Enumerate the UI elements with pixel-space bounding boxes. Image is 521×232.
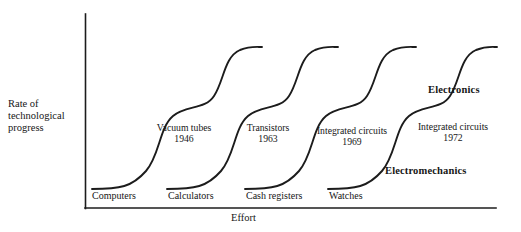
annotation-vacuum-tubes-year: 1946 bbox=[148, 133, 220, 144]
callout-electromechanics: Electromechanics bbox=[385, 165, 467, 177]
base-label-computers: Computers bbox=[92, 190, 136, 202]
y-axis-label-line-1: Rate of bbox=[8, 98, 82, 110]
annotation-vacuum-tubes: Vacuum tubes 1946 bbox=[148, 122, 220, 145]
annotation-integrated-circuits-1972-name: Integrated circuits bbox=[411, 121, 495, 132]
base-label-calculators: Calculators bbox=[168, 190, 214, 202]
technology-s-curve-figure: Rate of technological progress Effort Co… bbox=[0, 0, 521, 232]
s-curve-calculators bbox=[167, 47, 338, 189]
s-curve-computers bbox=[92, 47, 262, 189]
callout-electronics: Electronics bbox=[428, 84, 480, 96]
annotation-integrated-circuits-1969-year: 1969 bbox=[310, 136, 394, 147]
y-axis-label-line-3: progress bbox=[8, 122, 82, 134]
base-label-watches: Watches bbox=[329, 190, 363, 202]
annotation-integrated-circuits-1972: Integrated circuits 1972 bbox=[411, 121, 495, 144]
annotation-transistors: Transistors 1963 bbox=[237, 122, 299, 145]
annotation-transistors-name: Transistors bbox=[237, 122, 299, 133]
annotation-integrated-circuits-1969-name: Integrated circuits bbox=[310, 125, 394, 136]
annotation-vacuum-tubes-name: Vacuum tubes bbox=[148, 122, 220, 133]
y-axis-label-line-2: technological bbox=[8, 110, 82, 122]
annotation-integrated-circuits-1972-year: 1972 bbox=[411, 132, 495, 143]
annotation-transistors-year: 1963 bbox=[237, 133, 299, 144]
x-axis-label: Effort bbox=[231, 212, 256, 224]
base-label-cash-registers: Cash registers bbox=[246, 190, 302, 202]
y-axis-label: Rate of technological progress bbox=[8, 98, 82, 135]
annotation-integrated-circuits-1969: Integrated circuits 1969 bbox=[310, 125, 394, 148]
